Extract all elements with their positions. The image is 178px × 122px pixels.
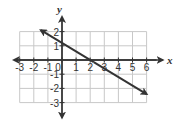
tick-labels: -3-2-1012345621-1-2-3 — [15, 27, 150, 109]
x-axis-label: x — [166, 54, 173, 66]
x-tick-label: 4 — [116, 62, 122, 73]
y-tick-label: -2 — [50, 83, 59, 94]
y-tick-label: 2 — [53, 27, 59, 38]
x-tick-label: -2 — [29, 62, 38, 73]
y-axis-label: y — [55, 3, 62, 15]
coordinate-plane: -3-2-1012345621-1-2-3 x y — [0, 0, 178, 122]
y-tick-label: -1 — [50, 69, 59, 80]
x-tick-label: 6 — [144, 62, 150, 73]
grid — [20, 32, 147, 103]
x-tick-label: 1 — [73, 62, 79, 73]
x-tick-label: 2 — [87, 62, 93, 73]
x-tick-label: -3 — [15, 62, 24, 73]
x-tick-label: 5 — [130, 62, 136, 73]
y-tick-label: -3 — [50, 98, 59, 109]
y-tick-label: 1 — [53, 41, 59, 52]
